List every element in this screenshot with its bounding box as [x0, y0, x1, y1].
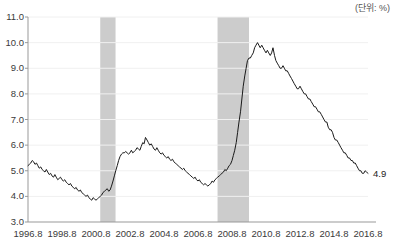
unemployment-rate-chart: (단위: %) 11.010.09.08.07.06.05.04.03.0 19…	[0, 0, 396, 246]
plot-area	[0, 0, 396, 246]
annotation-end-value: 4.9	[373, 168, 386, 179]
series-line-unemployment-rate	[28, 43, 368, 201]
